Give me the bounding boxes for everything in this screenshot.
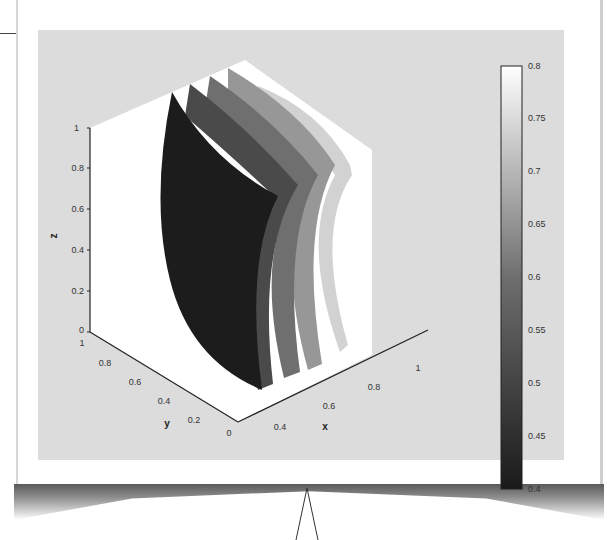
- z-tick-0.4: 0.4: [71, 245, 84, 255]
- x-tick-0.8: 0.8: [368, 382, 381, 392]
- x-tick-1: 1: [415, 363, 420, 373]
- z-axis-label: z: [48, 234, 59, 239]
- y-tick-1: 1: [79, 338, 84, 348]
- y-axis-label: y: [164, 418, 170, 429]
- y-tick-0.4: 0.4: [158, 396, 171, 406]
- colorbar-tick-0.65: 0.65: [528, 219, 546, 229]
- z-tick-0.6: 0.6: [71, 204, 84, 214]
- z-tick-1: 1: [74, 123, 79, 133]
- y-tick-0.6: 0.6: [129, 377, 142, 387]
- y-tick-0.8: 0.8: [99, 358, 112, 368]
- colorbar: [501, 66, 522, 489]
- colorbar-tick-0.4: 0.4: [528, 484, 541, 494]
- colorbar-tick-0.5: 0.5: [528, 378, 541, 388]
- x-tick-0.4: 0.4: [274, 422, 287, 432]
- colorbar-tick-0.6: 0.6: [528, 272, 541, 282]
- x-axis-label: x: [322, 421, 328, 432]
- y-tick-0: 0: [226, 428, 231, 438]
- z-tick-0.2: 0.2: [71, 286, 84, 296]
- colorbar-tick-0.55: 0.55: [528, 325, 546, 335]
- x-tick-0.6: 0.6: [323, 401, 336, 411]
- z-tick-0.8: 0.8: [71, 163, 84, 173]
- z-tick-0: 0: [79, 325, 84, 335]
- colorbar-tick-0.7: 0.7: [528, 166, 541, 176]
- colorbar-tick-0.8: 0.8: [528, 61, 541, 71]
- slice-plot: 1 0.8 0.6 0.4 0.2 0 z 1 0.8 0.6 0.4 0.2 …: [0, 0, 607, 540]
- y-tick-0.2: 0.2: [188, 415, 201, 425]
- colorbar-tick-0.75: 0.75: [528, 113, 546, 123]
- colorbar-tick-0.45: 0.45: [528, 431, 546, 441]
